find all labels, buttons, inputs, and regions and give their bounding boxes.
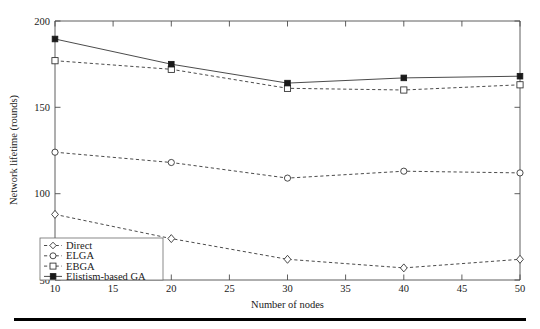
data-point — [52, 58, 58, 64]
x-axis-title: Number of nodes — [251, 299, 324, 310]
x-tick-label: 30 — [282, 283, 293, 294]
bottom-rule — [14, 318, 526, 321]
chart-legend: Direct ELGA EBGA Elistism-based GA — [40, 238, 163, 282]
x-tick-label: 45 — [457, 283, 468, 294]
y-tick-label: 150 — [34, 102, 50, 113]
y-tick-label: 200 — [34, 16, 50, 27]
data-point — [517, 73, 523, 79]
y-axis-title: Network lifetime (rounds) — [8, 94, 20, 205]
data-point — [168, 159, 174, 165]
data-point — [284, 175, 290, 181]
x-tick-label: 25 — [224, 283, 235, 294]
y-tick-label: 100 — [34, 188, 50, 199]
x-tick-label: 20 — [166, 283, 177, 294]
data-point — [169, 61, 175, 67]
data-point — [52, 36, 58, 42]
data-point — [401, 87, 407, 93]
legend-label: Elistism-based GA — [66, 271, 146, 282]
circle-marker-icon — [50, 253, 56, 259]
x-tick-label: 40 — [399, 283, 410, 294]
chart-figure: 10 15 20 25 30 35 40 45 50 50 100 150 20… — [0, 0, 540, 329]
data-point — [517, 82, 523, 88]
x-tick-label: 10 — [50, 283, 61, 294]
x-tick-label: 50 — [515, 283, 526, 294]
data-point — [401, 168, 407, 174]
data-point — [517, 170, 523, 176]
data-point — [285, 80, 291, 86]
filled-square-marker-icon — [50, 274, 56, 280]
x-tick-label: 15 — [108, 283, 119, 294]
network-lifetime-line-chart: 10 15 20 25 30 35 40 45 50 50 100 150 20… — [0, 0, 540, 329]
data-point — [401, 75, 407, 81]
x-tick-label: 35 — [340, 283, 351, 294]
data-point — [52, 149, 58, 155]
square-marker-icon — [50, 263, 56, 269]
